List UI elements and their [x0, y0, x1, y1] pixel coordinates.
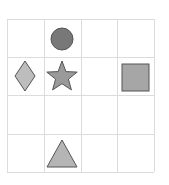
diamond-shape	[15, 61, 35, 91]
square-shape	[122, 64, 149, 91]
star-shape	[47, 61, 77, 90]
triangle-shape	[47, 140, 77, 167]
shape-grid	[0, 0, 169, 185]
grid-lines	[7, 19, 155, 173]
circle-shape	[51, 28, 73, 50]
